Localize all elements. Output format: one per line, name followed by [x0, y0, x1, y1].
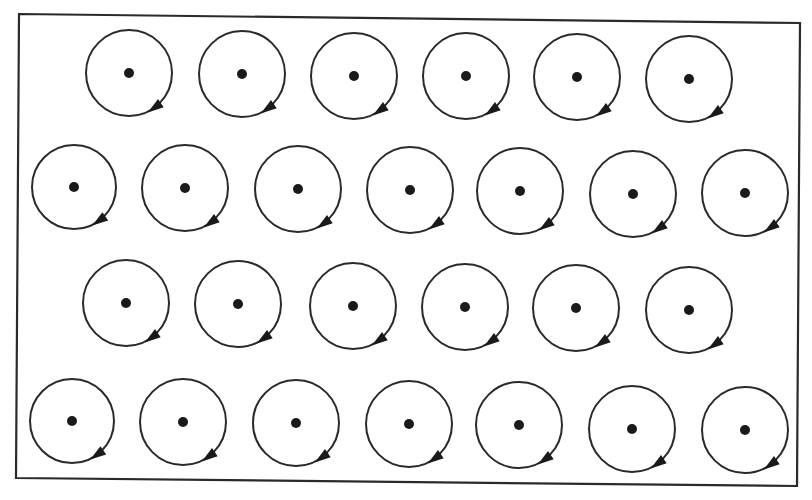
diagram-frame — [16, 14, 800, 486]
center-dot-icon — [349, 71, 359, 81]
center-dot-icon — [291, 418, 301, 428]
orbit — [367, 147, 453, 233]
orbit — [702, 387, 788, 473]
orbit-row-3 — [83, 260, 732, 353]
orbit-grid — [30, 30, 788, 473]
center-dot-icon — [124, 68, 134, 78]
center-dot-icon — [404, 419, 414, 429]
center-dot-icon — [627, 424, 637, 434]
center-dot-icon — [121, 298, 131, 308]
orbit — [32, 145, 116, 229]
center-dot-icon — [572, 72, 582, 82]
center-dot-icon — [67, 416, 77, 426]
center-dot-icon — [514, 420, 524, 430]
orbit-row-1 — [86, 30, 732, 122]
orbit — [476, 382, 562, 468]
orbit — [255, 146, 341, 232]
orbit — [310, 263, 396, 349]
orbit — [199, 31, 285, 117]
center-dot-icon — [178, 417, 188, 427]
center-dot-icon — [237, 69, 247, 79]
orbit — [195, 261, 281, 347]
center-dot-icon — [405, 185, 415, 195]
orbit — [142, 145, 228, 231]
orbit — [533, 265, 619, 351]
orbit-row-2 — [32, 145, 788, 237]
center-dot-icon — [233, 299, 243, 309]
center-dot-icon — [628, 189, 638, 199]
orbit-diagram — [0, 0, 812, 500]
center-dot-icon — [461, 71, 471, 81]
center-dot-icon — [740, 425, 750, 435]
orbit — [366, 381, 452, 467]
orbit — [534, 34, 620, 120]
orbit — [646, 267, 732, 353]
center-dot-icon — [348, 301, 358, 311]
orbit — [422, 264, 508, 350]
orbit — [590, 151, 676, 237]
orbit — [702, 150, 788, 236]
center-dot-icon — [684, 305, 694, 315]
center-dot-icon — [740, 188, 750, 198]
center-dot-icon — [180, 183, 190, 193]
center-dot-icon — [460, 302, 470, 312]
center-dot-icon — [293, 184, 303, 194]
orbit — [423, 33, 509, 119]
orbit — [140, 379, 226, 465]
orbit — [30, 379, 114, 463]
center-dot-icon — [515, 186, 525, 196]
diagram-canvas — [0, 0, 812, 500]
orbit — [646, 36, 732, 122]
orbit — [86, 30, 172, 116]
orbit — [311, 33, 397, 119]
center-dot-icon — [571, 303, 581, 313]
orbit — [253, 380, 339, 466]
orbit — [589, 386, 675, 472]
orbit — [83, 260, 169, 346]
center-dot-icon — [684, 74, 694, 84]
center-dot-icon — [69, 182, 79, 192]
orbit-row-4 — [30, 379, 788, 473]
orbit — [477, 148, 563, 234]
